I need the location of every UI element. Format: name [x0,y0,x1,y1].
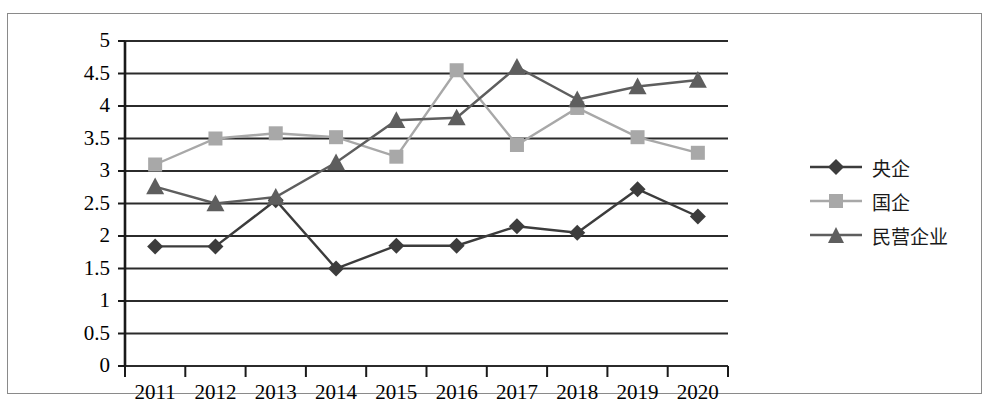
square-data-marker [389,150,403,164]
legend-label-minying: 民营企业 [872,222,948,249]
legend-label-guoqi: 国企 [872,188,910,215]
series-line [155,67,698,204]
diamond-data-marker [449,238,465,254]
series-group [146,58,707,277]
legend-item-guoqi[interactable]: 国企 [808,184,978,218]
diamond-data-marker [147,238,163,254]
diamond-data-marker [509,218,525,234]
square-data-marker [269,126,283,140]
square-data-marker [148,158,162,172]
square-data-marker [450,63,464,77]
diamond-data-marker [690,209,706,225]
series-line [155,70,698,164]
y-tick-label: 5 [48,30,110,51]
y-tick-label: 0.5 [48,323,110,344]
legend-item-yangqi[interactable]: 央企 [808,150,978,184]
diamond-data-marker [630,181,646,197]
square-data-marker [691,146,705,160]
y-tick-label: 1 [48,290,110,311]
triangle-marker-icon [808,223,864,247]
y-tick-label: 1.5 [48,258,110,279]
x-tick-label: 2020 [658,382,738,403]
square-data-marker [510,138,524,152]
y-tick-label: 3.5 [48,128,110,149]
y-tick-label: 4.5 [48,63,110,84]
triangle-data-marker [327,154,345,171]
square-data-marker [208,132,222,146]
legend-item-minying[interactable]: 民营企业 [808,218,978,252]
y-tick-label: 2 [48,225,110,246]
y-tick-label: 0 [48,355,110,376]
y-tick-label: 2.5 [48,193,110,214]
diamond-data-marker [569,225,585,241]
square-data-marker [329,130,343,144]
diamond-data-marker [388,238,404,254]
chart-page: 00.511.522.533.544.55 201120122013201420… [0,0,991,408]
diamond-marker-icon [808,155,864,179]
chart-frame: 00.511.522.533.544.55 201120122013201420… [7,13,982,394]
square-data-marker [631,130,645,144]
triangle-data-marker [267,188,285,205]
square-marker-icon [808,189,864,213]
legend-label-yangqi: 央企 [872,154,910,181]
triangle-data-marker [146,178,164,195]
y-tick-label: 3 [48,160,110,181]
chart-legend: 央企 国企 民营企业 [808,150,978,252]
triangle-data-marker [508,58,526,75]
y-tick-label: 4 [48,95,110,116]
